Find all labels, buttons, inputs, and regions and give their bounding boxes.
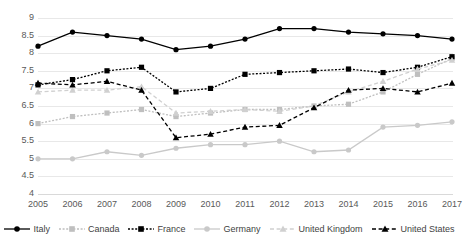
legend-item-label: France (157, 224, 185, 234)
data-point (346, 66, 351, 71)
data-point (70, 77, 75, 82)
y-axis-tick-label: 4.5 (0, 171, 34, 180)
legend-item-united-states[interactable]: United States (372, 224, 455, 234)
series-canada (35, 56, 454, 126)
legend-item-label: United States (401, 224, 455, 234)
series-layer (38, 18, 453, 194)
legend-swatch-icon (4, 224, 30, 234)
x-axis-tick-label: 2017 (432, 198, 467, 210)
y-axis-tick-label: 7 (0, 83, 34, 92)
data-point (346, 147, 351, 152)
data-point (139, 65, 144, 70)
y-axis-tick-label: 9 (0, 13, 34, 22)
series-france (35, 54, 454, 94)
data-point (35, 156, 40, 161)
data-point (139, 107, 144, 112)
legend-swatch-icon (372, 224, 398, 234)
data-point (173, 89, 178, 94)
series-italy (35, 26, 454, 52)
data-point (35, 121, 40, 126)
data-point (208, 44, 213, 49)
series-line (38, 60, 452, 113)
legend-item-label: United Kingdom (299, 224, 363, 234)
series-united-kingdom (35, 57, 456, 116)
y-axis-tick-label: 6.5 (0, 101, 34, 110)
data-point (415, 72, 420, 77)
data-point (242, 37, 247, 42)
data-point (346, 29, 351, 34)
data-point (311, 26, 316, 31)
y-axis-tick-label: 7.5 (0, 66, 34, 75)
data-point (70, 29, 75, 34)
data-point (449, 80, 456, 86)
data-point (35, 44, 40, 49)
y-axis-tick-label: 4 (0, 189, 34, 198)
data-point (277, 70, 282, 75)
data-point (173, 110, 180, 116)
data-point (208, 86, 213, 91)
data-point (70, 114, 75, 119)
legend-item-label: Germany (223, 224, 260, 234)
data-point (242, 72, 247, 77)
legend-item-canada[interactable]: Canada (59, 224, 120, 234)
data-point (311, 68, 316, 73)
y-axis-tick-label: 8.5 (0, 31, 34, 40)
data-point (139, 153, 144, 158)
data-point (242, 124, 249, 130)
data-point (139, 37, 144, 42)
y-axis-tick-label: 5.5 (0, 136, 34, 145)
legend-item-united-kingdom[interactable]: United Kingdom (270, 224, 363, 234)
data-point (380, 78, 387, 84)
data-point (345, 87, 352, 93)
data-point (70, 156, 75, 161)
legend-swatch-icon (194, 224, 220, 234)
y-axis-tick-label: 5 (0, 154, 34, 163)
data-point (346, 102, 351, 107)
data-point (415, 33, 420, 38)
y-axis-tick-label: 8 (0, 48, 34, 57)
data-point (104, 33, 109, 38)
data-point (380, 125, 385, 130)
x-axis-line (38, 194, 453, 195)
data-point (104, 110, 109, 115)
legend-swatch-icon (128, 224, 154, 234)
legend-item-italy[interactable]: Italy (4, 224, 50, 234)
y-axis: 44.555.566.577.588.59 (0, 18, 34, 194)
data-point (415, 123, 420, 128)
data-point (380, 70, 385, 75)
legend-item-france[interactable]: France (128, 224, 185, 234)
y-axis-tick-label: 6 (0, 119, 34, 128)
legend-swatch-icon (59, 224, 85, 234)
data-point (449, 37, 454, 42)
data-point (173, 47, 178, 52)
series-line (38, 58, 452, 123)
legend-swatch-icon (270, 224, 296, 234)
data-point (242, 142, 247, 147)
data-point (173, 146, 178, 151)
data-point (208, 142, 213, 147)
data-point (104, 149, 109, 154)
data-point (277, 26, 282, 31)
legend-item-label: Canada (88, 224, 120, 234)
data-point (104, 68, 109, 73)
data-point (311, 149, 316, 154)
legend-item-germany[interactable]: Germany (194, 224, 260, 234)
legend-item-label: Italy (33, 224, 50, 234)
data-point (277, 139, 282, 144)
data-point (380, 31, 385, 36)
data-point (449, 119, 454, 124)
x-axis: 2005200620072008200920102011201220132014… (38, 198, 453, 212)
chart-legend: ItalyCanadaFranceGermanyUnited KingdomUn… (0, 219, 459, 239)
